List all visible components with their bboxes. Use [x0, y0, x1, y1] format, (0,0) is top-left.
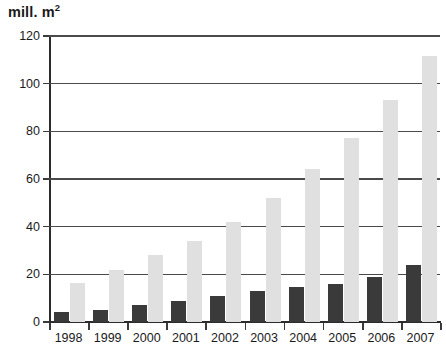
bar-dark-2003	[250, 291, 265, 322]
x-axis-tick	[49, 323, 51, 330]
bar-dark-2001	[171, 301, 186, 322]
y-axis-tick-label: 40	[0, 221, 40, 234]
x-axis-tick-label: 2006	[362, 332, 401, 345]
gridline	[49, 83, 440, 85]
x-axis-tick-label: 2002	[205, 332, 244, 345]
x-axis-tick-label: 2001	[166, 332, 205, 345]
bar-light-1998	[70, 283, 85, 322]
bar-dark-2005	[328, 284, 343, 322]
x-axis-tick	[88, 323, 90, 330]
x-axis-tick-label: 2004	[284, 332, 323, 345]
x-axis-tick-label: 2003	[245, 332, 284, 345]
bar-dark-2002	[210, 296, 225, 322]
x-axis-tick	[440, 323, 442, 330]
x-axis-tick	[401, 323, 403, 330]
x-axis-tick	[323, 323, 325, 330]
bar-light-2000	[148, 255, 163, 322]
axis-title-superscript: 2	[55, 2, 60, 13]
plot-area	[49, 36, 440, 322]
bar-light-2006	[383, 100, 398, 322]
bar-chart: mill. m2 020406080100120 199819992000200…	[0, 0, 446, 350]
bar-dark-2004	[289, 287, 304, 322]
x-axis-tick	[166, 323, 168, 330]
gridline	[49, 35, 440, 37]
bar-dark-1998	[54, 312, 69, 322]
y-axis-tick-label: 120	[0, 30, 40, 43]
x-axis-tick-label: 2007	[401, 332, 440, 345]
bar-light-1999	[109, 270, 124, 322]
bar-light-2004	[305, 169, 320, 322]
bar-dark-2000	[132, 305, 147, 322]
x-axis-tick	[205, 323, 207, 330]
x-axis-tick-label: 2000	[127, 332, 166, 345]
y-axis-tick-label: 60	[0, 173, 40, 186]
chart-axis-title: mill. m2	[8, 2, 60, 20]
x-axis-tick	[284, 323, 286, 330]
axis-title-main: mill. m	[8, 4, 55, 20]
x-axis-tick-label: 1999	[88, 332, 127, 345]
x-axis-tick-label: 2005	[323, 332, 362, 345]
x-axis-tick	[245, 323, 247, 330]
x-axis-tick-label: 1998	[49, 332, 88, 345]
gridline	[49, 178, 440, 180]
bar-light-2002	[226, 222, 241, 322]
bar-light-2001	[187, 241, 202, 322]
y-axis-tick-label: 100	[0, 78, 40, 91]
x-axis-tick	[362, 323, 364, 330]
gridline	[49, 131, 440, 133]
gridline	[49, 226, 440, 228]
bar-dark-2007	[406, 265, 421, 322]
y-axis-tick-label: 0	[0, 316, 40, 329]
bar-dark-2006	[367, 277, 382, 322]
bar-light-2003	[266, 198, 281, 322]
y-axis-tick-label: 20	[0, 268, 40, 281]
bar-light-2007	[422, 56, 437, 322]
y-axis-tick-label: 80	[0, 125, 40, 138]
bar-dark-1999	[93, 310, 108, 322]
x-axis-tick	[127, 323, 129, 330]
bar-light-2005	[344, 138, 359, 322]
gridline	[49, 274, 440, 276]
